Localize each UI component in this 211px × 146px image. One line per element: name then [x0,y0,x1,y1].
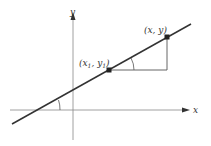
point-x1-y1 [107,68,112,73]
angle-arc-x-axis [59,100,61,110]
x-axis-arrow-icon [182,108,190,113]
sloped-line [12,24,191,124]
x-axis-label: x [193,105,198,115]
y-axis [71,12,76,140]
point-x-y [165,35,170,40]
point-x1-y1-label: (x1, y1) [79,58,110,69]
y-axis-label: y [69,7,76,17]
point-x-y-label: (x, y) [144,25,167,35]
angle-arc-triangle [131,58,134,70]
slope-diagram: y x (x1, y1) (x, y) [0,0,211,146]
